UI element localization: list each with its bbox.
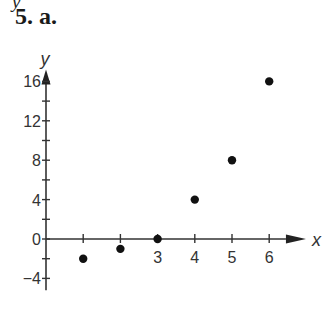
x-axis-arrow-icon <box>286 235 306 244</box>
y-axis-arrow-icon <box>42 70 51 85</box>
x-tick-label: 5 <box>228 249 237 266</box>
y-tick-label: 4 <box>32 192 41 209</box>
data-point <box>265 77 273 85</box>
y-axis-label: y <box>39 49 51 69</box>
y-tick-label: 12 <box>23 113 41 130</box>
data-point <box>79 255 87 263</box>
y-tick-label: 0 <box>32 231 41 248</box>
data-point <box>153 235 161 243</box>
scatter-chart: yx−404812163456 <box>0 0 329 314</box>
x-tick-label: 6 <box>265 249 274 266</box>
x-tick-label: 4 <box>190 249 199 266</box>
y-tick-label: 8 <box>32 152 41 169</box>
data-point <box>228 156 236 164</box>
data-point <box>116 245 124 253</box>
x-axis-label: x <box>311 230 322 250</box>
y-tick-label: 16 <box>23 73 41 90</box>
data-point <box>191 195 199 203</box>
y-tick-label: −4 <box>23 270 41 287</box>
x-tick-label: 3 <box>153 249 162 266</box>
